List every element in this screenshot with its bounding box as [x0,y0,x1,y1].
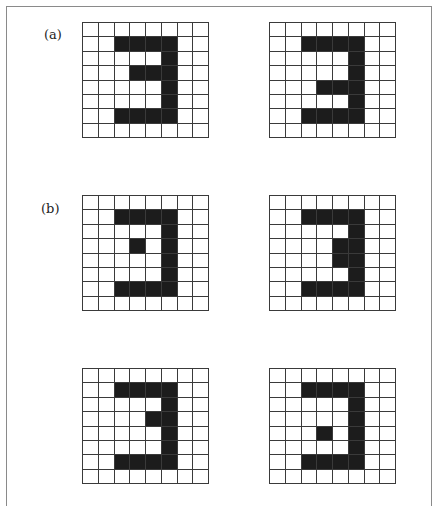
empty-cell [270,369,286,383]
filled-cell [349,441,365,455]
empty-cell [349,369,365,383]
empty-cell [270,124,286,138]
empty-cell [333,369,349,383]
empty-cell [365,23,381,37]
empty-cell [83,124,99,138]
empty-cell [83,412,99,426]
empty-cell [115,297,131,311]
empty-cell [380,427,396,441]
empty-cell [302,23,318,37]
empty-cell [302,427,318,441]
filled-cell [349,37,365,51]
empty-cell [365,210,381,224]
grid-a-left [82,22,209,138]
empty-cell [115,124,131,138]
empty-cell [380,23,396,37]
empty-cell [270,109,286,123]
filled-cell [130,239,146,253]
empty-cell [317,441,333,455]
empty-cell [130,124,146,138]
empty-cell [286,124,302,138]
filled-cell [162,37,178,51]
empty-cell [178,196,194,210]
empty-cell [317,470,333,484]
empty-cell [302,95,318,109]
empty-cell [286,455,302,469]
empty-cell [99,470,115,484]
empty-cell [270,455,286,469]
empty-cell [178,95,194,109]
empty-cell [317,369,333,383]
empty-cell [193,427,209,441]
empty-cell [380,383,396,397]
filled-cell [349,66,365,80]
empty-cell [99,455,115,469]
empty-cell [83,239,99,253]
filled-cell [317,383,333,397]
filled-cell [115,210,131,224]
empty-cell [83,66,99,80]
empty-cell [380,52,396,66]
empty-cell [193,412,209,426]
empty-cell [115,196,131,210]
empty-cell [302,239,318,253]
empty-cell [130,412,146,426]
empty-cell [193,81,209,95]
empty-cell [317,225,333,239]
empty-cell [178,66,194,80]
filled-cell [349,398,365,412]
empty-cell [99,268,115,282]
filled-cell [162,225,178,239]
empty-cell [380,109,396,123]
empty-cell [83,470,99,484]
empty-cell [333,427,349,441]
empty-cell [178,297,194,311]
empty-cell [302,124,318,138]
empty-cell [178,210,194,224]
empty-cell [99,109,115,123]
empty-cell [115,95,131,109]
empty-cell [83,37,99,51]
empty-cell [286,383,302,397]
empty-cell [99,210,115,224]
empty-cell [270,254,286,268]
empty-cell [365,95,381,109]
filled-cell [146,282,162,296]
empty-cell [365,66,381,80]
empty-cell [130,254,146,268]
empty-cell [333,470,349,484]
empty-cell [130,470,146,484]
empty-cell [333,95,349,109]
empty-cell [146,470,162,484]
filled-cell [317,109,333,123]
empty-cell [270,239,286,253]
empty-cell [83,268,99,282]
empty-cell [178,268,194,282]
empty-cell [302,470,318,484]
filled-cell [115,455,131,469]
empty-cell [302,196,318,210]
empty-cell [193,369,209,383]
empty-cell [365,412,381,426]
filled-cell [333,254,349,268]
empty-cell [193,66,209,80]
filled-cell [130,455,146,469]
empty-cell [130,81,146,95]
empty-cell [193,95,209,109]
empty-cell [317,52,333,66]
empty-cell [380,37,396,51]
empty-cell [130,52,146,66]
empty-cell [317,268,333,282]
empty-cell [146,239,162,253]
empty-cell [193,398,209,412]
grid-a-right [269,22,396,138]
empty-cell [130,441,146,455]
empty-cell [146,398,162,412]
empty-cell [99,81,115,95]
filled-cell [162,412,178,426]
empty-cell [380,268,396,282]
empty-cell [270,441,286,455]
empty-cell [302,297,318,311]
empty-cell [83,427,99,441]
empty-cell [193,239,209,253]
